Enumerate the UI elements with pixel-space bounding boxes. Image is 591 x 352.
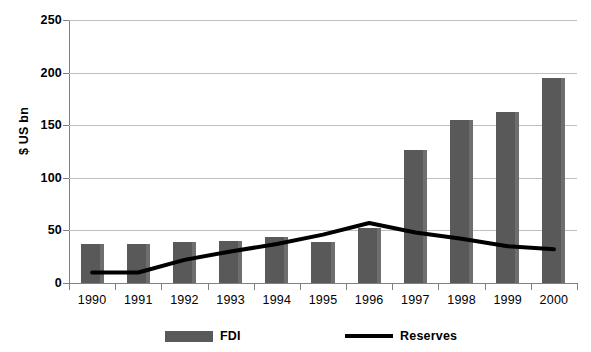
y-tick-100 [63,178,69,179]
x-tick-label-1994: 1994 [254,293,300,307]
x-tick-label-1998: 1998 [438,293,484,307]
y-tick-150 [63,125,69,126]
legend-item-reserves: Reserves [345,326,457,346]
y-tick-250 [63,20,69,21]
x-tick-8 [438,284,439,290]
gridline-0 [69,283,577,284]
x-tick-label-2000: 2000 [531,293,577,307]
y-tick-label-200: 200 [18,68,62,78]
x-tick-4 [254,284,255,290]
line-swatch-icon [345,334,393,338]
x-tick-1 [115,284,116,290]
fdi-reserves-chart: $ US bn 050100150200250 1990199119921993… [0,0,591,352]
bar-swatch-icon [165,331,213,342]
x-tick-label-1999: 1999 [485,293,531,307]
chart-legend: FDI Reserves [0,326,591,348]
x-tick-label-1996: 1996 [346,293,392,307]
x-tick-label-1990: 1990 [69,293,115,307]
x-tick-3 [208,284,209,290]
x-tick-label-1995: 1995 [300,293,346,307]
plot-area [69,20,577,283]
x-tick-9 [485,284,486,290]
x-tick-label-1993: 1993 [208,293,254,307]
y-tick-label-150: 150 [18,120,62,130]
x-tick-7 [392,284,393,290]
y-tick-label-250: 250 [18,15,62,25]
reserves-polyline [92,223,554,272]
x-tick-label-1991: 1991 [115,293,161,307]
y-tick-label-50: 50 [18,225,62,235]
y-tick-label-100: 100 [18,173,62,183]
legend-item-fdi: FDI [165,326,241,346]
y-axis-tick-labels: 050100150200250 [16,0,62,352]
legend-label-fdi: FDI [220,329,241,343]
x-tick-0 [69,284,70,290]
y-tick-200 [63,73,69,74]
x-axis-tick-labels: 1990199119921993199419951996199719981999… [69,293,577,313]
y-tick-label-0: 0 [18,278,62,288]
line-series-reserves [69,20,577,283]
legend-label-reserves: Reserves [400,329,457,343]
x-tick-label-1997: 1997 [392,293,438,307]
x-tick-10 [531,284,532,290]
x-tick-11 [577,284,578,290]
x-tick-5 [300,284,301,290]
x-tick-2 [161,284,162,290]
x-tick-label-1992: 1992 [161,293,207,307]
x-tick-6 [346,284,347,290]
y-tick-50 [63,230,69,231]
